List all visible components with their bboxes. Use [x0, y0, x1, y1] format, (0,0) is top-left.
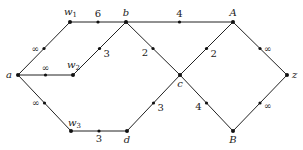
node-label-w3: w3: [68, 117, 81, 130]
node-w3: [69, 129, 73, 133]
node-w1: [68, 20, 72, 24]
edge-weight-w3-d: 3: [96, 133, 102, 144]
node-c: [178, 73, 182, 77]
edge-weight-w2-b: 3: [104, 48, 110, 59]
node-label-w1: w1: [64, 6, 77, 19]
edge-marker-a-w2: [44, 73, 47, 76]
edge-weight-b-c: 2: [142, 47, 148, 58]
edge-marker-a-w1: [42, 47, 45, 50]
node-A: [231, 20, 235, 24]
node-label-z: z: [291, 69, 298, 80]
node-label-B: B: [228, 134, 236, 145]
edge-marker-b-A: [178, 20, 181, 23]
edge-marker-c-B: [205, 101, 208, 104]
edge-marker-w2-b: [98, 47, 101, 50]
node-z: [285, 73, 289, 77]
edge-marker-c-A: [205, 47, 208, 50]
edge-weight-c-A: 2: [211, 48, 217, 59]
node-label-b: b: [123, 7, 129, 18]
edge-weight-b-A: 4: [176, 8, 182, 19]
node-label-c: c: [177, 78, 183, 89]
edge-weight-w1-b: 6: [95, 8, 101, 19]
edge-weight-a-w3: ∞: [32, 98, 40, 108]
edge-weight-c-B: 4: [195, 101, 201, 112]
edge-marker-w1-b: [96, 20, 99, 23]
edge-weight-a-w2: ∞: [42, 63, 50, 73]
node-b: [124, 20, 128, 24]
graph-diagram: ∞∞∞63342234∞∞aw1w2w3bcdABz: [0, 0, 303, 150]
edge-marker-d-c: [152, 101, 155, 104]
edge-marker-B-z: [258, 101, 261, 104]
edge-weight-d-c: 3: [158, 102, 164, 113]
edge-weight-B-z: ∞: [264, 101, 272, 111]
node-d: [125, 129, 129, 133]
node-B: [231, 129, 235, 133]
edge-weight-A-z: ∞: [264, 44, 272, 54]
node-label-w2: w2: [67, 59, 80, 72]
edge-marker-a-w3: [43, 101, 46, 104]
node-a: [16, 73, 20, 77]
node-label-A: A: [228, 7, 236, 18]
edge-weight-a-w1: ∞: [32, 44, 40, 54]
edge-marker-A-z: [258, 47, 261, 50]
edge-marker-b-c: [151, 47, 154, 50]
node-label-a: a: [6, 69, 12, 80]
node-w2: [71, 73, 75, 77]
node-label-d: d: [124, 134, 130, 145]
